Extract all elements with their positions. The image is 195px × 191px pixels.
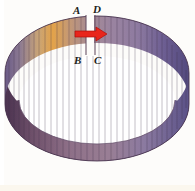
mobius-band-figure: A D B C [0,0,195,191]
vertex-label-a: A [73,5,80,16]
vertex-label-c: C [94,55,101,66]
bottom-margin-strip [0,185,195,191]
vertex-label-d: D [93,4,101,15]
band-illustration [0,0,195,191]
band-body [5,14,189,178]
vertex-label-b: B [74,55,81,66]
band-inner-hole [19,56,175,144]
left-margin [0,0,4,191]
